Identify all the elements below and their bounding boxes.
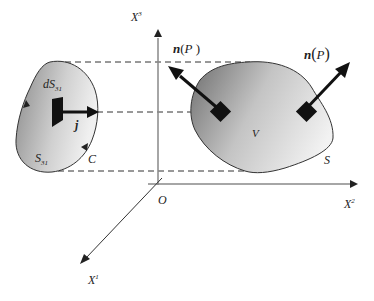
x1-axis	[86, 178, 162, 258]
x3-axis-arrowhead	[154, 29, 162, 37]
body-volume-v	[191, 62, 333, 173]
surface-s-label: S	[324, 153, 330, 167]
diagram-canvas: X3 X2 X1 O dS31 S31 C j V S n(P ) n(P)	[0, 0, 374, 301]
x3-axis-label: X3	[130, 10, 142, 24]
x1-axis-label: X1	[87, 273, 99, 287]
curve-c-label: C	[88, 152, 97, 166]
x2-axis-label: X2	[343, 197, 355, 211]
normal-left-label: n(P )	[173, 41, 200, 56]
origin-label: O	[158, 193, 167, 207]
x2-axis-arrowhead	[350, 180, 358, 188]
normal-right-label: n(P)	[304, 45, 330, 63]
